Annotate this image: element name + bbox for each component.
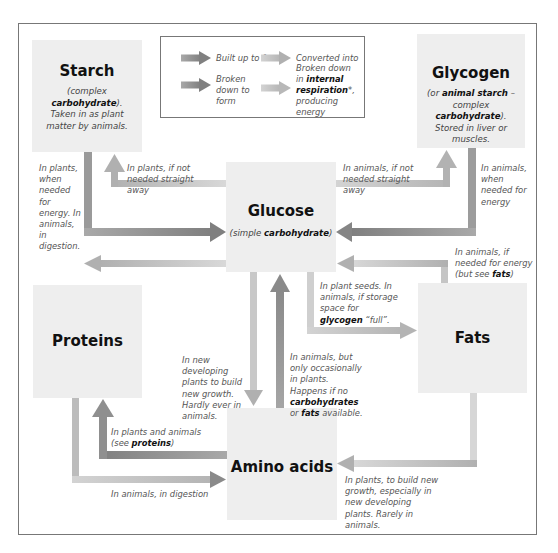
note-glucose-to-glycogen: In animals, if not needed straight away bbox=[343, 163, 433, 197]
converted-arrow-icon bbox=[261, 51, 291, 65]
node-starch: Starch (complex carbohydrate). Taken in … bbox=[32, 40, 142, 152]
proteins-title: Proteins bbox=[33, 332, 142, 350]
broken-down-arrow-icon bbox=[181, 78, 211, 92]
note-glucose-to-amino: In new developing plants to build new gr… bbox=[182, 355, 248, 422]
note-glucose-to-starch: In plants, if not needed straight away bbox=[127, 163, 217, 197]
built-up-arrow-icon bbox=[181, 51, 211, 65]
note-amino-to-glucose: In animals, but only occasionally in pla… bbox=[290, 352, 368, 419]
arrow-glucose-left bbox=[84, 255, 226, 272]
node-glycogen: Glycogen (or animal starch – complex car… bbox=[417, 34, 525, 148]
glucose-title: Glucose bbox=[226, 202, 336, 220]
note-starch-to-glucose: In plants, when needed for energy. In an… bbox=[39, 163, 83, 253]
key-respiration-label: Broken down in internal respiration*, pr… bbox=[296, 63, 361, 118]
node-glucose: Glucose (simple carbohydrate) bbox=[226, 162, 336, 272]
note-glucose-to-fats: In plant seeds. In animals, if storage s… bbox=[320, 281, 400, 326]
note-proteins-to-amino: In animals, in digestion bbox=[111, 489, 231, 500]
fats-title: Fats bbox=[418, 329, 527, 347]
node-amino-acids: Amino acids bbox=[227, 408, 337, 520]
arrow-fats-to-glucose bbox=[337, 255, 448, 283]
note-glycogen-to-glucose: In animals, when needed for energy bbox=[481, 163, 533, 208]
node-proteins: Proteins bbox=[33, 285, 142, 398]
note-fats-to-amino: In plants, to build new growth, especial… bbox=[345, 475, 441, 531]
node-fats: Fats bbox=[418, 283, 527, 393]
arrow-amino-to-glucose bbox=[270, 274, 290, 408]
legend-key: Built up to form Converted into Broken d… bbox=[160, 36, 365, 118]
respiration-arrow-icon bbox=[261, 81, 291, 95]
amino-acids-title: Amino acids bbox=[227, 458, 337, 476]
key-broken-down-label: Broken down to form bbox=[216, 74, 261, 107]
glycogen-title: Glycogen bbox=[417, 64, 525, 82]
glucose-description: (simple carbohydrate) bbox=[226, 228, 336, 240]
starch-description: (complex carbohydrate). Taken in as plan… bbox=[32, 86, 142, 132]
glycogen-description: (or animal starch – complex carbohydrate… bbox=[417, 88, 525, 146]
note-amino-to-proteins: In plants and animals (see proteins) bbox=[111, 427, 221, 449]
note-fats-to-glucose: In animals, if needed for energy (but se… bbox=[455, 247, 535, 281]
starch-title: Starch bbox=[32, 62, 142, 80]
